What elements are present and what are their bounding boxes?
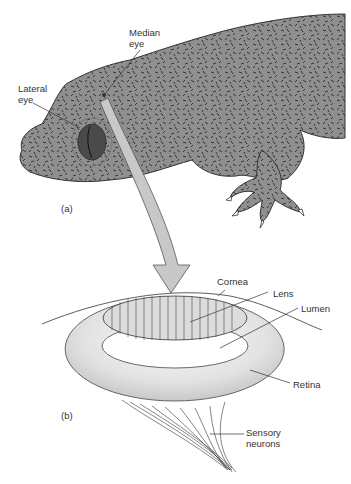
retina-label: Retina xyxy=(293,379,320,390)
median-eye-diagram xyxy=(0,0,351,484)
gecko-illustration xyxy=(20,14,345,228)
median-eye-label: Median eye xyxy=(129,27,160,49)
sensory-neurons-label: Sensory neurons xyxy=(246,427,281,449)
lateral-eye-label: Lateral eye xyxy=(18,83,47,105)
lumen-label: Lumen xyxy=(301,303,330,314)
lens-label: Lens xyxy=(273,288,294,299)
panel-a-label: (a) xyxy=(61,203,73,214)
lateral-eye-shape xyxy=(78,124,106,160)
cornea-label: Cornea xyxy=(217,276,248,287)
panel-b-label: (b) xyxy=(61,410,73,421)
